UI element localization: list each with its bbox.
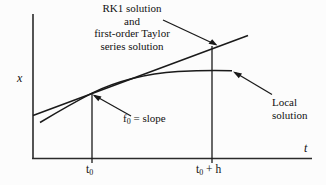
y-axis-label: x: [17, 71, 22, 86]
x-tick-label-t0-plus-h-suffix: + h: [203, 163, 221, 175]
x-tick-label-t0-plus-h-sub: 0: [199, 168, 203, 177]
x-tick-label-t0: t0: [86, 163, 93, 175]
annotation-slope-subscript: 0: [127, 117, 131, 126]
annotation-local-solution-line-2: solution: [272, 109, 320, 122]
arrow-local-annotation: [233, 72, 272, 95]
annotation-local-solution: Local solution: [272, 96, 320, 121]
x-tick-label-t0-plus-h: t0 + h: [196, 163, 221, 175]
x-tick-label-t0-sub: 0: [89, 168, 93, 177]
x-axis-label: t: [304, 141, 307, 156]
annotation-slope: f0 = slope: [123, 112, 166, 127]
figure-ode-rk1-local-solution: x t RK1 solution and first-order Taylor …: [0, 0, 326, 185]
annotation-slope-suffix: = slope: [131, 112, 166, 124]
annotation-rk1-taylor-line-3: first-order Taylor: [86, 27, 178, 40]
annotation-rk1-taylor: RK1 solution and first-order Taylor seri…: [86, 2, 178, 52]
annotation-rk1-taylor-line-1: RK1 solution: [86, 2, 178, 15]
annotation-rk1-taylor-line-4: series solution: [86, 40, 178, 53]
annotation-rk1-taylor-line-2: and: [86, 15, 178, 28]
annotation-local-solution-line-1: Local: [272, 96, 320, 109]
